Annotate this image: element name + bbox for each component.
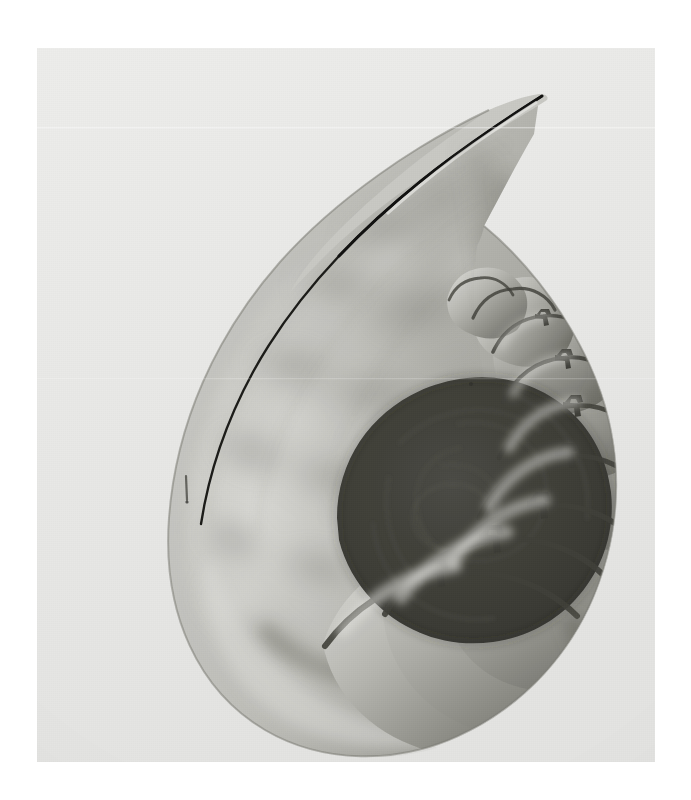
image-canvas: A black and white photograph of a nautil… — [0, 0, 691, 800]
emulsion-scratch — [186, 476, 187, 500]
nautilus-shell-illustration — [37, 48, 655, 762]
photographic-print — [37, 48, 655, 762]
core-speck — [469, 382, 473, 386]
emulsion-speck — [185, 500, 188, 503]
photo-caption: A black and white photograph of a nautil… — [0, 0, 1, 1]
